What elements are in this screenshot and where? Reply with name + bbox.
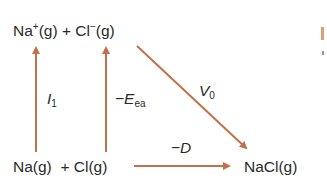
lattice-energy-label: V0 (199, 83, 215, 101)
na-atom: Na(g) (13, 158, 52, 175)
electron-affinity-label: −Eea (115, 91, 146, 109)
label-sub: 1 (51, 98, 57, 109)
plus-sign: + (60, 158, 69, 175)
plus-sign: + (62, 22, 71, 39)
nacl-label: NaCl(g) (244, 159, 297, 175)
label-main: −E (115, 90, 134, 107)
dissociation-energy-label: −D (171, 140, 191, 156)
edge-fragment-mark (322, 51, 324, 55)
bottom-left-species-label: Na(g) + Cl(g) (13, 159, 107, 175)
top-species-label: Na+(g) + Cl−(g) (13, 22, 115, 39)
ionization-energy-label: I1 (47, 91, 57, 109)
cl-ion: Cl (75, 22, 90, 39)
label-sub: 0 (209, 90, 215, 101)
lattice-energy-arrow (137, 46, 246, 148)
label-sub: ea (134, 98, 145, 109)
cl-atom: Cl(g) (74, 158, 108, 175)
cl-ion-state: (g) (96, 22, 115, 39)
na-ion-state: (g) (39, 22, 58, 39)
na-ion: Na (13, 22, 33, 39)
edge-fragment-bar (321, 27, 324, 40)
label-main: V (199, 82, 209, 99)
